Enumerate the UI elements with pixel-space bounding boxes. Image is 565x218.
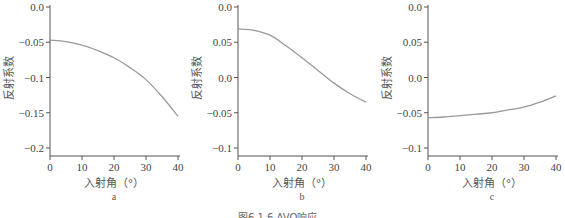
y-axis-title: 反射系数 bbox=[380, 56, 394, 100]
y-tick-label: −0.05 bbox=[19, 36, 45, 48]
x-tick-label: 0 bbox=[235, 161, 241, 173]
x-tick-label: 20 bbox=[487, 161, 499, 173]
y-tick-label: −0.15 bbox=[19, 107, 45, 119]
y-axis-title: 反射系数 bbox=[2, 56, 16, 100]
y-tick-label: 0.05 bbox=[403, 36, 423, 48]
x-tick-label: 40 bbox=[551, 161, 563, 173]
y-tick-label: −0.05 bbox=[397, 107, 423, 119]
x-tick-label: 20 bbox=[297, 161, 309, 173]
y-tick-label: −0.1 bbox=[402, 142, 422, 154]
x-tick-label: 10 bbox=[265, 161, 277, 173]
y-tick-label: 0.0 bbox=[218, 1, 232, 13]
x-tick-label: 30 bbox=[141, 161, 153, 173]
y-tick-label: 0.0 bbox=[408, 72, 422, 84]
figure-caption: 图6.1.6 AVO响应 bbox=[238, 211, 317, 218]
x-axis-title: 入射角（°） bbox=[84, 176, 145, 190]
y-tick-label: −0.1 bbox=[24, 72, 44, 84]
x-tick-label: 30 bbox=[519, 161, 531, 173]
panel-label: a bbox=[112, 191, 117, 202]
x-tick-label: 40 bbox=[173, 161, 185, 173]
series-line-avo bbox=[50, 40, 178, 116]
x-tick-label: 0 bbox=[47, 161, 53, 173]
panel-label: c bbox=[490, 191, 495, 202]
x-tick-label: 0 bbox=[425, 161, 431, 173]
y-tick-label: −0.2 bbox=[24, 142, 44, 154]
avo-figure: 0.0−0.05−0.1−0.15−0.2010203040入射角（°）反射系数… bbox=[0, 0, 565, 218]
x-tick-label: 10 bbox=[77, 161, 89, 173]
x-tick-label: 10 bbox=[455, 161, 467, 173]
y-tick-label: 0.0 bbox=[408, 1, 422, 13]
y-tick-label: 0.05 bbox=[213, 36, 233, 48]
y-tick-label: −0.05 bbox=[207, 107, 233, 119]
chart-panel-a: 0.0−0.05−0.1−0.15−0.2010203040入射角（°）反射系数… bbox=[2, 1, 184, 202]
x-tick-label: 20 bbox=[109, 161, 121, 173]
panel-label: b bbox=[300, 191, 305, 202]
y-tick-label: −0.1 bbox=[212, 142, 232, 154]
x-tick-label: 30 bbox=[329, 161, 341, 173]
x-axis-title: 入射角（°） bbox=[462, 176, 523, 190]
y-tick-label: 0.0 bbox=[30, 1, 44, 13]
series-line-avo bbox=[428, 96, 556, 118]
chart-panel-b: 0.00.050.0−0.05−0.1010203040入射角（°）反射系数b bbox=[190, 1, 372, 202]
x-axis-title: 入射角（°） bbox=[272, 176, 333, 190]
y-tick-label: 0.0 bbox=[218, 72, 232, 84]
chart-panel-c: 0.00.050.0−0.05−0.1010203040入射角（°）反射系数c bbox=[380, 1, 562, 202]
series-line-avo bbox=[238, 29, 366, 102]
y-axis-title: 反射系数 bbox=[190, 56, 204, 100]
x-tick-label: 40 bbox=[361, 161, 373, 173]
